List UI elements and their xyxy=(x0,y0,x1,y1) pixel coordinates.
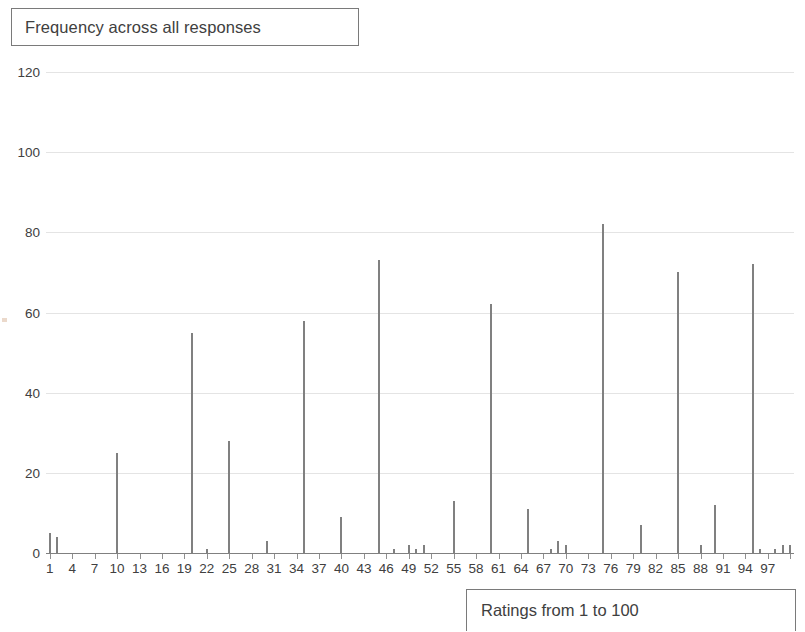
x-axis-tick-label: 43 xyxy=(356,561,371,576)
y-axis-tick-label: 20 xyxy=(25,465,40,480)
x-axis-tick xyxy=(95,554,96,559)
bar xyxy=(408,545,410,553)
x-axis-tick xyxy=(184,554,185,559)
x-axis-tick-label: 28 xyxy=(244,561,259,576)
x-axis-tick xyxy=(566,554,567,559)
x-axis-tick-label: 7 xyxy=(91,561,99,576)
x-axis-tick xyxy=(72,554,73,559)
bar xyxy=(782,545,784,553)
x-axis-tick xyxy=(341,554,342,559)
plot-area xyxy=(46,72,794,553)
bar xyxy=(340,517,342,553)
x-axis-tick xyxy=(790,554,791,559)
x-axis-tick-label: 10 xyxy=(110,561,125,576)
bar xyxy=(752,264,754,553)
x-axis-title-box: Ratings from 1 to 100 xyxy=(466,589,796,631)
x-axis-tick xyxy=(543,554,544,559)
x-axis-tick-label: 88 xyxy=(693,561,708,576)
bar xyxy=(423,545,425,553)
bar xyxy=(565,545,567,553)
x-axis-tick-label: 25 xyxy=(222,561,237,576)
x-axis-tick xyxy=(252,554,253,559)
x-axis-tick-label: 79 xyxy=(626,561,641,576)
x-axis-tick xyxy=(274,554,275,559)
x-axis-tick-label: 31 xyxy=(267,561,282,576)
bar xyxy=(191,333,193,553)
bar xyxy=(116,453,118,553)
chart-title: Frequency across all responses xyxy=(25,18,261,37)
x-axis-tick-label: 4 xyxy=(68,561,76,576)
bar xyxy=(56,537,58,553)
x-axis-tick xyxy=(633,554,634,559)
x-axis-tick xyxy=(297,554,298,559)
x-axis-tick xyxy=(117,554,118,559)
x-axis-tick xyxy=(229,554,230,559)
y-axis-tick-label: 60 xyxy=(25,305,40,320)
bar xyxy=(490,304,492,553)
bar xyxy=(49,533,51,553)
y-axis-tick-label: 80 xyxy=(25,225,40,240)
x-axis-tick xyxy=(140,554,141,559)
y-axis-tick-label: 40 xyxy=(25,385,40,400)
bar xyxy=(557,541,559,553)
x-axis-tick-label: 22 xyxy=(199,561,214,576)
x-axis-tick xyxy=(431,554,432,559)
x-axis-tick xyxy=(678,554,679,559)
x-axis-tick-label: 49 xyxy=(401,561,416,576)
x-axis-tick xyxy=(409,554,410,559)
x-axis-labels: 1471013161922252831343740434649525558616… xyxy=(46,561,794,581)
x-axis-tick-label: 82 xyxy=(648,561,663,576)
x-axis-tick xyxy=(611,554,612,559)
x-axis-tick-label: 13 xyxy=(132,561,147,576)
x-axis-tick xyxy=(50,554,51,559)
x-axis-tick-label: 34 xyxy=(289,561,304,576)
bar xyxy=(700,545,702,553)
bar xyxy=(527,509,529,553)
x-axis-tick-label: 19 xyxy=(177,561,192,576)
x-axis-tick xyxy=(588,554,589,559)
x-axis-tick-label: 58 xyxy=(469,561,484,576)
x-axis-ticks xyxy=(46,554,794,559)
x-axis-tick xyxy=(364,554,365,559)
x-axis-tick-label: 46 xyxy=(379,561,394,576)
x-axis-tick xyxy=(162,554,163,559)
x-axis-tick-label: 40 xyxy=(334,561,349,576)
x-axis-tick xyxy=(701,554,702,559)
bar xyxy=(789,545,791,553)
x-axis-tick xyxy=(656,554,657,559)
x-axis-tick-label: 85 xyxy=(671,561,686,576)
x-axis-tick xyxy=(521,554,522,559)
x-axis-tick-label: 64 xyxy=(513,561,528,576)
bar xyxy=(228,441,230,553)
bar xyxy=(266,541,268,553)
bars-layer xyxy=(46,72,794,553)
x-axis-tick-label: 61 xyxy=(491,561,506,576)
x-axis-tick-label: 91 xyxy=(715,561,730,576)
x-axis-tick-label: 1 xyxy=(46,561,54,576)
x-axis-tick-label: 37 xyxy=(312,561,327,576)
x-axis-tick xyxy=(454,554,455,559)
x-axis-tick-label: 67 xyxy=(536,561,551,576)
x-axis-tick xyxy=(745,554,746,559)
y-axis-tick-label: 100 xyxy=(17,145,40,160)
x-axis-tick-label: 52 xyxy=(424,561,439,576)
y-axis-labels: 020406080100120 xyxy=(0,72,40,553)
x-axis-title: Ratings from 1 to 100 xyxy=(481,601,639,620)
chart-title-box: Frequency across all responses xyxy=(11,8,359,46)
bar xyxy=(677,272,679,553)
x-axis-tick xyxy=(768,554,769,559)
x-axis-tick xyxy=(386,554,387,559)
bar xyxy=(303,321,305,553)
bar xyxy=(378,260,380,553)
bar xyxy=(640,525,642,553)
x-axis-tick xyxy=(319,554,320,559)
x-axis-tick xyxy=(476,554,477,559)
bar xyxy=(453,501,455,553)
y-axis-tick-label: 120 xyxy=(17,65,40,80)
x-axis-tick xyxy=(499,554,500,559)
x-axis-tick xyxy=(207,554,208,559)
x-axis-tick-label: 94 xyxy=(738,561,753,576)
x-axis-tick-label: 97 xyxy=(760,561,775,576)
x-axis-tick-label: 73 xyxy=(581,561,596,576)
x-axis-tick xyxy=(723,554,724,559)
